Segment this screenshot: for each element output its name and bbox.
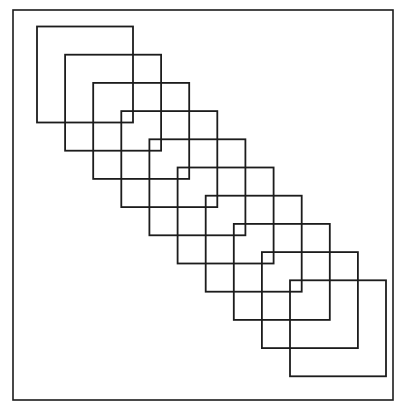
square-9 (262, 252, 358, 348)
square-5 (149, 139, 245, 235)
square-6 (178, 168, 274, 264)
square-7 (206, 196, 302, 292)
outer-border-rect (13, 10, 393, 400)
square-3 (93, 83, 189, 179)
square-8 (234, 224, 330, 320)
square-2 (65, 55, 161, 151)
figure-canvas (0, 0, 407, 418)
square-1 (37, 27, 133, 123)
diagram-svg (0, 0, 407, 418)
square-10 (290, 280, 386, 376)
overlapping-squares-group (37, 27, 386, 377)
square-4 (121, 111, 217, 207)
